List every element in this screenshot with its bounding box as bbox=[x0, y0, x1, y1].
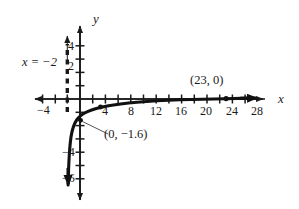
asymptote-label: x = −2 bbox=[22, 56, 57, 69]
x-tick-label-8: 8 bbox=[128, 105, 134, 117]
x-tick-label-24: 24 bbox=[226, 105, 238, 117]
x-tick-label-28: 28 bbox=[251, 105, 263, 117]
x-tick-label-neg4: −4 bbox=[37, 104, 50, 116]
point-23-0 bbox=[224, 96, 229, 101]
y-axis-label: y bbox=[93, 12, 99, 25]
y-tick-label-4: 4 bbox=[68, 40, 74, 52]
x-tick-label-4: 4 bbox=[102, 105, 108, 117]
y-tick-label-neg6: −6 bbox=[62, 172, 75, 184]
function-curve bbox=[0, 0, 256, 185]
y-tick-label-2: 2 bbox=[68, 60, 74, 72]
annotation-23-0: (23, 0) bbox=[190, 74, 223, 87]
x-axis-label: x bbox=[278, 92, 284, 105]
x-tick-label-16: 16 bbox=[175, 105, 187, 117]
x-tick-label-20: 20 bbox=[200, 105, 212, 117]
y-tick-label-neg4: −4 bbox=[62, 146, 75, 158]
point-0-neg1-6 bbox=[78, 118, 83, 123]
annotation-0-neg1-6: (0, −1.6) bbox=[104, 128, 148, 141]
graph-figure: y x x = −2 (23, 0) (0, −1.6) −4 4 8 12 1… bbox=[0, 0, 299, 209]
x-tick-label-12: 12 bbox=[150, 105, 162, 117]
